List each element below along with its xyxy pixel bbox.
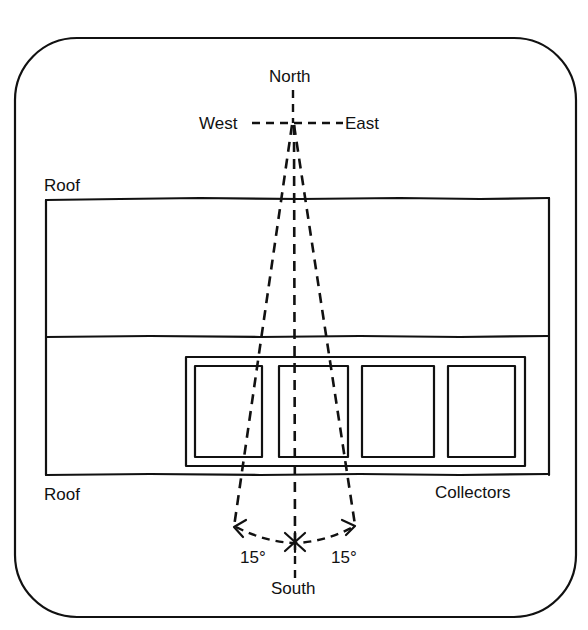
label-south: South	[271, 579, 315, 598]
label-angle-right: 15°	[331, 548, 357, 567]
diagram-canvas: North West East Roof Roof Collectors 15°…	[0, 0, 588, 630]
label-east: East	[345, 114, 379, 133]
label-angle-left: 15°	[240, 548, 266, 567]
label-roof-top: Roof	[44, 176, 80, 195]
label-roof-bottom: Roof	[44, 485, 80, 504]
label-north: North	[269, 67, 311, 86]
collector-panel	[448, 366, 515, 457]
compass-cross	[252, 90, 343, 123]
orientation-lines	[234, 125, 355, 578]
roof	[46, 198, 549, 475]
label-collectors: Collectors	[435, 483, 511, 502]
collector-panel	[362, 366, 434, 457]
label-west: West	[199, 114, 238, 133]
collectors-array	[186, 357, 525, 466]
outer-frame	[15, 38, 576, 617]
arrow-right-icon	[342, 520, 355, 535]
south-star-icon	[285, 532, 305, 552]
